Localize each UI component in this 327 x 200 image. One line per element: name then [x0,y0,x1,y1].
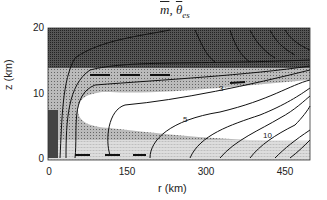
y-tick: 0 [30,153,44,164]
x-axis-label: r (km) [158,182,187,194]
contour-label: 3 [219,84,224,93]
contour-label: 5 [183,115,188,124]
contour-label: 10 [263,131,272,140]
x-tick: 300 [191,166,221,177]
y-tick: 20 [30,22,44,33]
y-axis-label: z (km) [2,59,14,90]
x-tick: 150 [112,166,142,177]
y-tick: 10 [30,88,44,99]
x-tick: 0 [34,166,64,177]
x-tick: 450 [270,166,300,177]
